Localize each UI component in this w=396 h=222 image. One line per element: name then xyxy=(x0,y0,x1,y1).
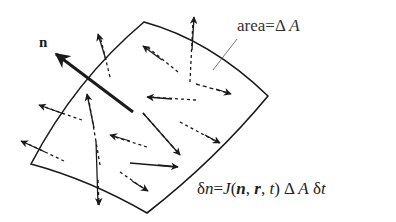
eq-func: J xyxy=(223,179,231,198)
area-prefix: area= xyxy=(237,16,275,35)
eq-lhs-delta: δ xyxy=(197,179,205,198)
eq-delta-t: δ xyxy=(309,179,321,198)
eq-area-var: A xyxy=(298,179,308,198)
area-var: A xyxy=(289,16,299,35)
area-label: area=Δ A xyxy=(237,16,300,36)
eq-time-var: t xyxy=(321,179,326,198)
eq-equals: = xyxy=(214,179,224,198)
area-delta: Δ xyxy=(275,16,285,35)
eq-arg2: r xyxy=(254,179,261,198)
eq-lhs-var: n xyxy=(205,179,214,198)
equation-label: δn=J(n, r, t) Δ A δt xyxy=(197,179,326,199)
normal-label: n xyxy=(39,34,47,51)
eq-delta-a: Δ xyxy=(280,179,299,198)
eq-arg1: n xyxy=(236,179,245,198)
